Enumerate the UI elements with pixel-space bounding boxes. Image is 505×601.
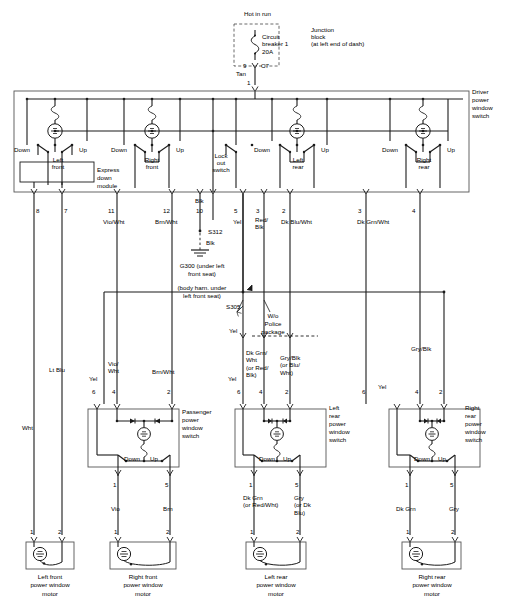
driver-power-window-switch-label: Driver power window switch xyxy=(472,88,493,120)
driver-pin-7: 7 xyxy=(64,207,67,214)
left-front-motor-label: Left front power window motor xyxy=(10,573,90,598)
breaker-rating-label: 20A xyxy=(262,48,273,55)
leftrear-out-pin-1: 1 xyxy=(249,481,252,488)
mid-wire-gry-blk: Gry/Blk xyxy=(411,345,431,352)
lf-up-label: Up xyxy=(79,146,87,153)
section-left-front-label: Left front xyxy=(40,156,76,170)
driver-pin-3-dkgrn: 3 xyxy=(358,207,361,214)
ground-g300-label: G300 (under left front seat) xyxy=(152,262,252,278)
rightrear-pin-4: 4 xyxy=(415,388,418,395)
connector-c7-label: C7 xyxy=(261,62,269,69)
hot-in-run-label: Hot in run xyxy=(244,10,271,17)
passenger-out-pin-1: 1 xyxy=(113,481,116,488)
leftrear-up-label: Up xyxy=(283,455,291,462)
lf-motor-pin-2: 2 xyxy=(58,528,61,535)
wire-color-blk-10: Blk xyxy=(195,197,204,204)
rightrear-up-label: Up xyxy=(438,455,446,462)
rr-motor-pin-2: 2 xyxy=(451,528,454,535)
leftrear-down-label: Down xyxy=(259,455,275,462)
passenger-switch-label: Passenger power window switch xyxy=(182,408,212,440)
rr-down-label: Down xyxy=(382,146,398,153)
mid-wire-wht: Wht xyxy=(22,424,33,431)
body-harness-note: (body harn. under left front seat) xyxy=(152,284,252,300)
splice-s305-label: S305 xyxy=(226,303,240,310)
wire-color-vio-wht-11: Vio/Wht xyxy=(103,218,125,225)
driver-pin-3-redblk: 3 xyxy=(256,207,259,214)
mid-wire-gry-blk-alt: Gry/Blk (or Blu/ Wht) xyxy=(280,354,300,376)
lf-motor-pin-1: 1 xyxy=(30,528,33,535)
out-color-vio: Vio xyxy=(111,505,120,512)
rf-motor-pin-2: 2 xyxy=(166,528,169,535)
rightrear-down-label: Down xyxy=(414,455,430,462)
rightrear-pin-6: 6 xyxy=(362,388,365,395)
leftrear-pin-2: 2 xyxy=(285,388,288,395)
rr-up-label: Up xyxy=(447,146,455,153)
junction-block-label: Junction block (at left end of dash) xyxy=(311,26,364,48)
leftrear-pin-6: 6 xyxy=(237,388,240,395)
driver-pin-2: 2 xyxy=(282,207,285,214)
wire-color-dk-grn-wht-3: Dk Grn/Wht xyxy=(357,218,389,225)
mid-wire-dk-grn-wht-alt: Dk Grn/ Wht (or Red/ Blk) xyxy=(246,349,268,379)
mid-wire-vio-wht: Vio/ Wht xyxy=(108,360,119,375)
connector-pin-9: 9 xyxy=(243,62,246,69)
right-rear-switch-label: Right rear power window switch xyxy=(465,404,486,444)
passenger-pin-6: 6 xyxy=(92,388,95,395)
rf-motor-pin-1: 1 xyxy=(114,528,117,535)
rightrear-pin-2: 2 xyxy=(439,388,442,395)
rf-up-label: Up xyxy=(176,146,184,153)
rightrear-out-pin-1: 1 xyxy=(405,481,408,488)
right-rear-motor-label: Right rear power window motor xyxy=(392,573,472,598)
left-rear-switch-label: Left rear power window switch xyxy=(329,404,350,444)
driver-pin-5: 5 xyxy=(234,207,237,214)
left-rear-motor-label: Left rear power window motor xyxy=(236,573,316,598)
wire-color-yel-5: Yel xyxy=(233,218,241,225)
lr-motor-pin-2: 2 xyxy=(296,528,299,535)
schematic-svg xyxy=(0,0,505,601)
feed-pin-1: 1 xyxy=(247,79,250,86)
lr-motor-pin-1: 1 xyxy=(250,528,253,535)
out-color-dk-grn-alt: Dk Grn (or Red/Wht) xyxy=(243,494,278,509)
out-color-gry: Gry xyxy=(449,505,459,512)
section-left-rear-label: Left rear xyxy=(281,156,315,170)
rf-down-label: Down xyxy=(111,146,127,153)
passenger-up-label: Up xyxy=(150,455,158,462)
mid-wire-yel-left: Yel xyxy=(89,375,97,382)
driver-pin-4: 4 xyxy=(412,207,415,214)
passenger-out-pin-5: 5 xyxy=(165,481,168,488)
section-right-front-label: Right front xyxy=(134,156,170,170)
out-color-gry-alt: Gry (or Dk Blu) xyxy=(294,494,311,516)
wire-color-brn-wht-12: Brn/Wht xyxy=(155,218,177,225)
splice-s312-label: S312 xyxy=(208,228,222,235)
lr-up-label: Up xyxy=(321,146,329,153)
mid-wire-lt-blu: Lt Blu xyxy=(49,366,65,373)
wiring-diagram-sheet: Hot in run Circuit breaker 1 20A Junctio… xyxy=(0,0,505,601)
circuit-breaker-label: Circuit breaker 1 xyxy=(262,33,288,47)
tan-wire-label: Tan xyxy=(236,70,246,77)
mid-wire-brn-wht: Brn/Wht xyxy=(152,368,174,375)
police-package-note: W/o Police package xyxy=(250,312,296,336)
driver-pin-8: 8 xyxy=(36,207,39,214)
passenger-pin-4: 4 xyxy=(112,388,115,395)
rr-motor-pin-1: 1 xyxy=(406,528,409,535)
driver-pin-11: 11 xyxy=(108,207,114,214)
out-color-dk-grn: Dk Grn xyxy=(396,505,416,512)
passenger-down-label: Down xyxy=(124,455,140,462)
mid-wire-yel-right: Yel xyxy=(378,383,386,390)
police-yel-lead-label: Yel xyxy=(229,327,237,334)
express-down-module-label: Express down module xyxy=(97,166,119,190)
leftrear-pin-4: 4 xyxy=(259,388,262,395)
right-front-motor-label: Right front power window motor xyxy=(103,573,183,598)
out-color-brn: Brn xyxy=(163,505,173,512)
lr-down-label: Down xyxy=(254,146,270,153)
leftrear-out-pin-5: 5 xyxy=(295,481,298,488)
mid-wire-yel-mid: Yel xyxy=(228,375,236,382)
lf-down-label: Down xyxy=(14,146,30,153)
ground-wire-blk-label: Blk xyxy=(206,239,215,246)
wire-color-red-blk-3: Red/ Blk xyxy=(255,216,268,231)
section-lock-out-switch-label: Lock out switch xyxy=(207,152,235,174)
rightrear-out-pin-5: 5 xyxy=(450,481,453,488)
driver-pin-10: 10 xyxy=(196,207,203,214)
wire-color-dk-blu-wht-2: Dk Blu/Wht xyxy=(281,218,312,225)
section-right-rear-label: Right rear xyxy=(406,156,442,170)
driver-pin-12: 12 xyxy=(163,207,170,214)
